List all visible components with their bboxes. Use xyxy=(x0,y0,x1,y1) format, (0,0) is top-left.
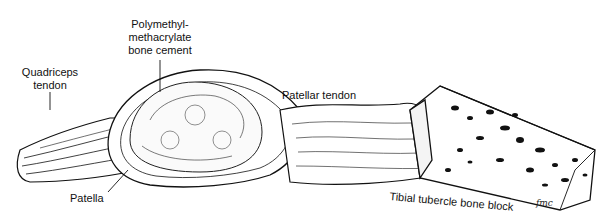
patella-label: Patella xyxy=(70,192,104,205)
cement-label-line-2: methacrylate xyxy=(118,31,202,44)
tendon-graft-drawing xyxy=(0,0,601,219)
bone-block-shape xyxy=(410,86,595,210)
illustration-canvas: Polymethyl- methacrylate bone cement Qua… xyxy=(0,0,601,219)
patellar-tendon-label: Patellar tendon xyxy=(282,89,356,102)
cement-label-line-3: bone cement xyxy=(118,44,202,57)
quadriceps-label-line-2: tendon xyxy=(14,79,86,92)
quadriceps-label: Quadriceps tendon xyxy=(14,66,86,92)
artist-signature: fmc xyxy=(536,198,553,208)
cement-label: Polymethyl- methacrylate bone cement xyxy=(118,18,202,57)
quadriceps-label-line-1: Quadriceps xyxy=(14,66,86,79)
cement-label-line-1: Polymethyl- xyxy=(118,18,202,31)
